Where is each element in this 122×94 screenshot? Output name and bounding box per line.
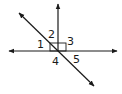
angle-label-4: 4 <box>52 55 59 68</box>
angle-label-3: 3 <box>67 35 74 48</box>
angle-label-1: 1 <box>37 38 44 51</box>
diagonal-line <box>19 13 94 86</box>
angle-label-2: 2 <box>48 28 55 41</box>
angle-label-5: 5 <box>73 53 80 66</box>
angle-diagram: 1 2 3 4 5 <box>0 0 122 94</box>
